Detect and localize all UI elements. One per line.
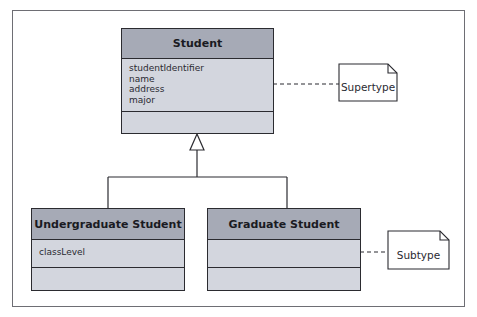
generalization-arrow-icon [190,134,204,150]
class-student-name: Student [122,29,273,59]
supertype-note-text: Supertype [341,81,395,93]
class-graduate-student[interactable]: Graduate Student [207,208,361,291]
class-undergraduate-name: Undergraduate Student [32,209,184,240]
supertype-note: Supertype [340,74,396,100]
attribute: name [129,74,273,85]
class-undergraduate-student[interactable]: Undergraduate Student classLevel [31,208,185,291]
attribute: address [129,84,273,95]
class-undergraduate-attributes: classLevel [32,240,184,268]
attribute: classLevel [39,247,184,258]
class-graduate-name: Graduate Student [208,209,360,240]
attribute: studentIdentifier [129,63,273,74]
class-student[interactable]: Student studentIdentifier name address m… [121,28,274,134]
subtype-note: Subtype [389,241,448,268]
class-student-attributes: studentIdentifier name address major [122,59,273,112]
attribute: major [129,95,273,106]
class-graduate-attributes [208,240,360,268]
subtype-note-text: Subtype [397,249,440,261]
